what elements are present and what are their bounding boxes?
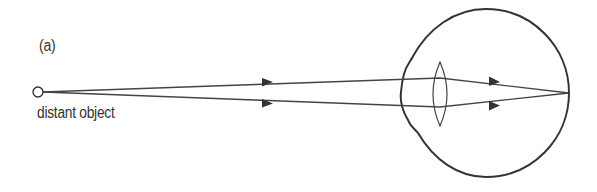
diagram-canvas (0, 0, 597, 192)
lens (433, 62, 447, 126)
object-point-icon (33, 87, 43, 97)
eyeball-outline (401, 9, 569, 177)
panel-label: (a) (39, 38, 55, 54)
arrow-icon-lower-refracted (489, 101, 500, 111)
eye-ray-diagram: (a) distant object (0, 0, 597, 192)
object-label: distant object (37, 105, 114, 121)
arrow-icon-upper-incoming (262, 78, 273, 87)
